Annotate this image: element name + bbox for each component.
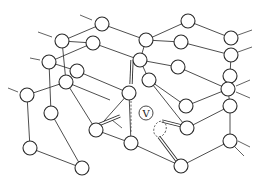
atoms	[20, 14, 238, 175]
vacancy-label: V	[141, 108, 150, 119]
lattice-diagram: V	[0, 0, 269, 193]
vacancy-marker: V	[139, 106, 153, 120]
lattice-svg: V	[0, 0, 269, 193]
